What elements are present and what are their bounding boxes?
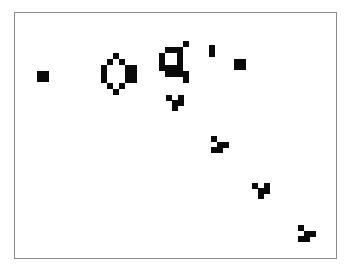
live-cell[interactable] — [310, 231, 316, 237]
live-cell[interactable] — [43, 76, 49, 82]
live-cell[interactable] — [304, 236, 310, 242]
live-cell[interactable] — [217, 147, 223, 153]
live-cell[interactable] — [240, 64, 246, 70]
live-cell[interactable] — [258, 193, 264, 199]
live-cell[interactable] — [107, 59, 113, 65]
live-cell[interactable] — [131, 77, 137, 83]
live-cell[interactable] — [183, 41, 189, 47]
live-cell[interactable] — [183, 77, 189, 83]
live-cell[interactable] — [223, 142, 229, 148]
live-cell[interactable] — [113, 89, 119, 95]
live-cell[interactable] — [172, 105, 178, 111]
live-cell[interactable] — [178, 100, 184, 106]
live-cell[interactable] — [209, 51, 215, 57]
live-cell[interactable] — [264, 188, 270, 194]
life-board[interactable] — [14, 12, 337, 259]
live-cell[interactable] — [119, 83, 125, 89]
